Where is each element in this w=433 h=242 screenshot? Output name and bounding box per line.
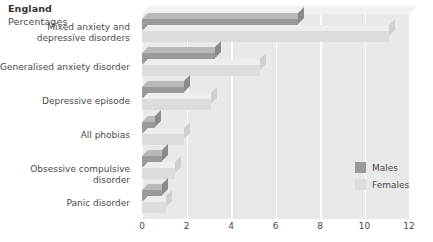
category-label-line: depressive disorders	[0, 33, 130, 44]
legend-label-males: Males	[372, 163, 398, 173]
bar-side-face	[184, 75, 190, 92]
legend-swatch-males-icon	[355, 162, 366, 173]
x-tick-label: 0	[139, 221, 145, 231]
bar-side-face	[389, 19, 395, 36]
x-tick-label: 2	[184, 221, 190, 231]
x-tick-label: 12	[403, 221, 414, 231]
bar-front-face	[142, 99, 211, 110]
bar-females[interactable]	[142, 134, 184, 145]
bar-side-face	[211, 87, 217, 104]
category-label-line: Obsessive compulsive disorder	[0, 164, 130, 186]
bar-side-face	[166, 190, 172, 207]
bar-front-face	[142, 65, 260, 76]
x-tick-label: 8	[317, 221, 323, 231]
category-axis: Mixed anxiety anddepressive disordersGen…	[0, 14, 136, 219]
bar-front-face	[142, 31, 389, 42]
category-label-line: Panic disorder	[0, 198, 130, 209]
bar-side-face	[215, 41, 221, 58]
category-label: Depressive episode	[0, 96, 130, 107]
bar-group	[142, 48, 433, 82]
bar-females[interactable]	[142, 168, 175, 179]
bar-group	[142, 14, 433, 48]
value-axis: 024681012	[142, 221, 433, 235]
bar-front-face	[142, 134, 184, 145]
category-label-line: Mixed anxiety and	[0, 22, 130, 33]
bar-side-face	[175, 156, 181, 173]
legend-swatch-females-icon	[355, 179, 366, 190]
bar-chart: England Percentages Mixed anxiety anddep…	[0, 0, 433, 242]
category-label-line: All phobias	[0, 130, 130, 141]
bar-group	[142, 82, 433, 116]
bar-females[interactable]	[142, 31, 389, 42]
category-label: Generalised anxiety disorder	[0, 62, 130, 73]
bar-front-face	[142, 202, 166, 213]
legend-item-females[interactable]: Females	[355, 177, 409, 192]
x-tick-label: 4	[228, 221, 234, 231]
bar-females[interactable]	[142, 65, 260, 76]
legend: Males Females	[355, 160, 409, 194]
category-label: Obsessive compulsive disorder	[0, 164, 130, 186]
category-label: Panic disorder	[0, 198, 130, 209]
category-label: Mixed anxiety anddepressive disorders	[0, 22, 130, 44]
category-label-line: Depressive episode	[0, 96, 130, 107]
legend-item-males[interactable]: Males	[355, 160, 409, 175]
legend-label-females: Females	[372, 180, 409, 190]
bar-females[interactable]	[142, 202, 166, 213]
category-label: All phobias	[0, 130, 130, 141]
x-tick-label: 10	[359, 221, 370, 231]
bar-front-face	[142, 168, 175, 179]
bar-group	[142, 117, 433, 151]
bar-side-face	[260, 53, 266, 70]
bar-side-face	[184, 122, 190, 139]
x-tick-label: 6	[273, 221, 279, 231]
category-label-line: Generalised anxiety disorder	[0, 62, 130, 73]
bar-females[interactable]	[142, 99, 211, 110]
